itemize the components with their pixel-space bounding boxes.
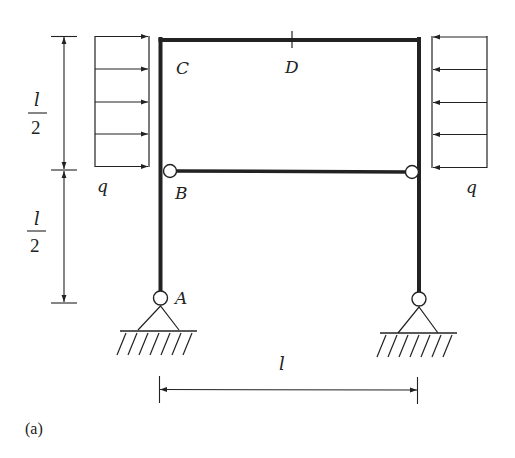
label-B: B — [174, 183, 188, 203]
hinge-B — [164, 165, 177, 178]
right-distributed-load — [432, 36, 487, 168]
label-C: C — [176, 58, 189, 78]
tie-beam — [176, 171, 406, 172]
label-D: D — [284, 57, 299, 77]
fraction-lower-half: l 2 — [27, 208, 46, 256]
figure-caption: (a) — [25, 420, 43, 438]
label-q-left: q — [97, 176, 108, 196]
support-right-triangle — [398, 307, 438, 333]
hinge-right — [406, 166, 419, 179]
fraction-upper-numerator: l — [34, 89, 40, 110]
left-distributed-load — [95, 36, 149, 167]
frame-diagram: C D B A q q l l 2 l 2 (a) — [0, 0, 515, 458]
label-A: A — [173, 288, 187, 308]
support-right — [377, 292, 457, 357]
support-right-pin — [412, 292, 426, 306]
label-q-right: q — [466, 177, 477, 197]
support-A-pin — [154, 291, 168, 305]
support-right-hatch — [377, 335, 452, 357]
horizontal-dimension — [160, 376, 418, 404]
support-A-triangle — [138, 306, 179, 330]
label-span-l: l — [279, 353, 285, 374]
fraction-upper-denominator: 2 — [31, 117, 41, 138]
fraction-upper-half: l 2 — [28, 89, 47, 138]
span-arrow — [160, 390, 417, 391]
support-A-hatch — [117, 333, 192, 355]
vertical-dimension — [51, 37, 77, 304]
fraction-lower-denominator: 2 — [30, 235, 40, 256]
fraction-lower-numerator: l — [34, 208, 40, 229]
